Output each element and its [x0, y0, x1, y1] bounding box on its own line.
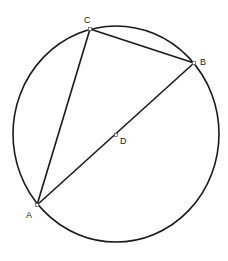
label-a: A: [26, 210, 32, 220]
point-c: [89, 28, 92, 31]
segment-cb: [90, 29, 194, 63]
point-a: [36, 204, 39, 207]
geometry-diagram: A B C D: [0, 0, 228, 261]
label-d: D: [120, 136, 127, 146]
point-b: [193, 62, 196, 65]
label-b: B: [200, 57, 206, 67]
point-d: [115, 134, 118, 137]
label-c: C: [84, 15, 91, 25]
